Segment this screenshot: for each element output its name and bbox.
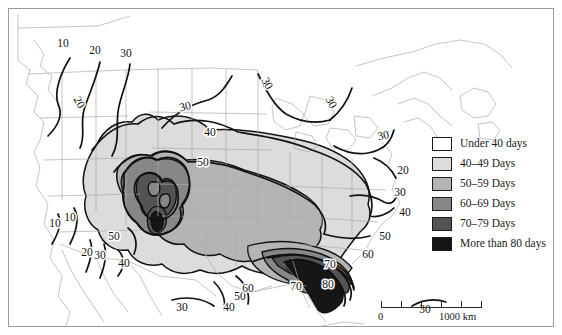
contour-label: 30 (94, 249, 106, 261)
legend-item-under-40: Under 40 days (432, 134, 556, 154)
contour-label: 20 (397, 164, 409, 176)
contour-label: 30 (260, 75, 276, 91)
contour-label: 40 (223, 301, 235, 313)
legend-item-60-69: 60–69 Days (432, 194, 556, 214)
contour-label: 60 (242, 282, 254, 294)
thunderstorm-days-map-figure: 1020302030303030405020304050601010203050… (0, 0, 562, 335)
legend-item-over-80: More than 80 days (432, 234, 556, 254)
map-legend: Under 40 days 40–49 Days 50–59 Days 60–6… (432, 134, 556, 254)
contour-label: 40 (399, 206, 411, 218)
legend-label-70-79: 70–79 Days (460, 218, 515, 230)
legend-label-under-40: Under 40 days (460, 138, 527, 150)
legend-label-over-80: More than 80 days (460, 238, 546, 250)
scale-bar-tick (421, 301, 422, 308)
legend-swatch-60-69 (432, 197, 452, 211)
legend-label-60-69: 60–69 Days (460, 198, 515, 210)
contour-label: 80 (322, 278, 334, 290)
contour-label: 10 (64, 211, 76, 223)
contour-label: 20 (81, 246, 93, 258)
contour-label: 30 (176, 301, 188, 313)
legend-item-70-79: 70–79 Days (432, 214, 556, 234)
legend-swatch-40-49 (432, 157, 452, 171)
legend-swatch-70-79 (432, 217, 452, 231)
contour-label: 40 (204, 126, 216, 138)
contour-label: 50 (197, 156, 209, 168)
scale-bar-start-label: 0 (378, 311, 383, 322)
scale-bar: 0 1000 km (381, 299, 493, 325)
contour-label: 30 (394, 186, 406, 198)
contour-label: 30 (376, 128, 390, 142)
contour-label: 10 (49, 217, 61, 229)
scale-bar-tick (381, 301, 382, 308)
contour-label: 30 (324, 94, 340, 110)
contour-label: 60 (362, 248, 374, 260)
isoline-40-east (370, 208, 394, 217)
contour-label: 30 (120, 47, 132, 59)
contour-label: 10 (57, 37, 69, 49)
legend-label-40-49: 40–49 Days (460, 158, 515, 170)
scale-bar-tick (441, 301, 442, 308)
isoline-10 (48, 58, 70, 136)
scale-bar-tick (461, 301, 462, 308)
contour-label: 70 (324, 258, 336, 270)
contour-label: 50 (379, 230, 391, 242)
contour-label: 30 (178, 99, 192, 113)
contour-label: 50 (108, 230, 120, 242)
legend-swatch-under-40 (432, 137, 452, 151)
legend-item-40-49: 40–49 Days (432, 154, 556, 174)
legend-swatch-50-59 (432, 177, 452, 191)
scale-bar-line (381, 307, 481, 308)
contour-label: 70 (290, 280, 302, 292)
legend-label-50-59: 50–59 Days (460, 178, 515, 190)
contour-label: 20 (89, 44, 101, 56)
legend-item-50-59: 50–59 Days (432, 174, 556, 194)
contour-label: 40 (118, 257, 130, 269)
legend-swatch-over-80 (432, 237, 452, 251)
scale-bar-tick (401, 301, 402, 308)
isoline-20-east (374, 158, 396, 178)
scale-bar-tick (481, 301, 482, 308)
scale-bar-end-label: 1000 km (439, 311, 476, 322)
zone-over-80-rockies (151, 212, 163, 232)
